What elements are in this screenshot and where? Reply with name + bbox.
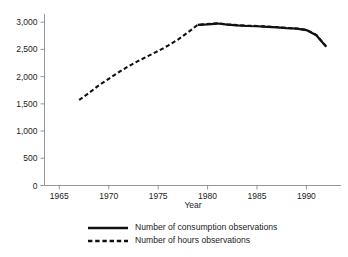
y-tick-label: 1,500	[16, 99, 38, 109]
data-series-group	[79, 23, 326, 100]
x-axis: 196519701975198019851990 Year	[45, 186, 342, 211]
chart-figure: 05001,0001,5002,0002,5003,000 1965197019…	[0, 0, 348, 257]
x-tick-label: 1970	[99, 191, 118, 201]
legend-item-hours: Number of hours observations	[88, 234, 340, 247]
legend-label-consumption: Number of consumption observations	[135, 222, 277, 233]
line-chart-plot: 05001,0001,5002,0002,5003,000 1965197019…	[0, 0, 348, 257]
x-axis-ticks	[59, 186, 306, 190]
legend-item-consumption: Number of consumption observations	[88, 221, 340, 234]
y-axis-tick-labels: 05001,0001,5002,0002,5003,000	[16, 17, 38, 190]
legend-swatch-dashed-icon	[88, 236, 128, 246]
y-tick-label: 1,000	[16, 126, 38, 136]
series-line-hours	[79, 23, 326, 100]
y-axis: 05001,0001,5002,0002,5003,000	[16, 14, 44, 191]
y-tick-label: 2,000	[16, 72, 38, 82]
x-axis-title: Year	[184, 200, 201, 210]
x-axis-tick-labels: 196519701975198019851990	[50, 191, 316, 201]
y-tick-label: 0	[33, 181, 38, 191]
legend-swatch-solid-icon	[88, 223, 128, 233]
x-tick-label: 1990	[297, 191, 316, 201]
legend-label-hours: Number of hours observations	[135, 235, 250, 246]
y-axis-ticks	[41, 22, 45, 185]
x-tick-label: 1975	[149, 191, 168, 201]
y-tick-label: 2,500	[16, 44, 38, 54]
series-line-consumption	[198, 24, 326, 47]
x-tick-label: 1965	[50, 191, 69, 201]
y-tick-label: 500	[23, 153, 37, 163]
x-tick-label: 1985	[248, 191, 267, 201]
y-tick-label: 3,000	[16, 17, 38, 27]
chart-legend: Number of consumption observations Numbe…	[88, 221, 340, 247]
